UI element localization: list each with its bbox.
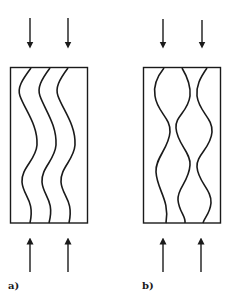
wavy-line — [39, 68, 56, 223]
diagram-canvas — [0, 0, 230, 302]
wavy-line — [176, 68, 190, 223]
bottom-arrows-a — [30, 241, 68, 272]
top-arrows-b — [163, 19, 202, 45]
wavy-lines-b — [154, 68, 212, 223]
panel-label-b: b) — [142, 281, 154, 291]
panel-label-a: a) — [8, 281, 19, 291]
bottom-arrows-b — [163, 241, 201, 272]
wavy-lines-a — [19, 68, 75, 223]
wavy-line — [154, 68, 170, 223]
panel-b — [144, 19, 221, 272]
wavy-line — [19, 68, 37, 223]
wavy-line — [197, 68, 212, 223]
panel-a — [11, 18, 88, 272]
wavy-line — [57, 68, 75, 223]
top-arrows-a — [30, 18, 68, 45]
